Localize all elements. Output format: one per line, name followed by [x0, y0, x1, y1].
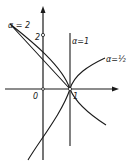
- label-two: 2: [35, 33, 40, 42]
- x-axis-arrow-icon: [112, 87, 119, 92]
- label-alpha-2: α = 2: [8, 21, 30, 30]
- curve-alpha-2: [10, 24, 70, 160]
- point-x-1: [68, 87, 71, 90]
- label-one: 1: [73, 92, 78, 101]
- label-alpha-1: α=1: [72, 37, 89, 46]
- diagram-canvas: α = 2 α=1 α=½ 0 1 2: [0, 0, 131, 167]
- y-axis-arrow-icon: [41, 6, 46, 13]
- point-y-2: [41, 33, 44, 36]
- label-origin: 0: [33, 92, 38, 101]
- point-origin: [42, 88, 45, 91]
- label-alpha-half: α=½: [106, 55, 126, 64]
